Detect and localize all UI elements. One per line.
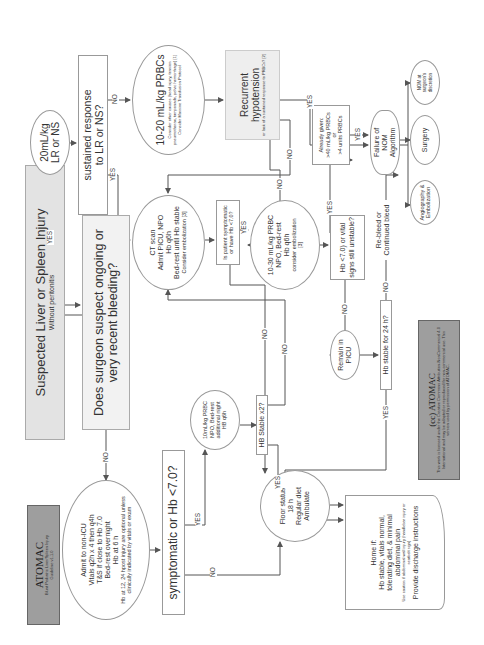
copyright-box: (cc) ATOMAC This work is licensed under …	[418, 320, 460, 480]
admit-line2: Vitals q2h x 4 then q4h	[88, 514, 96, 585]
hb-stable-24h-text: Hb stable for 24 h?	[382, 315, 390, 374]
prbc1030-line2: NPO, Bed-rest	[275, 222, 283, 268]
fluid-bolus-oval: 20mL/kg LR or NS	[30, 110, 70, 175]
prbc-10-20-note2: Consider Massive Transfusion Protocol	[178, 65, 183, 134]
sustained-response-line2: to LR or NS?	[93, 105, 105, 166]
edge-label-surgeon-yes: YES	[47, 230, 54, 245]
edge-label-ispatient-yes: YES	[241, 220, 248, 235]
edge-label-hb24-no: NO	[383, 281, 390, 293]
admit-line1: Admit to non-ICU	[80, 523, 88, 577]
hb-stable-x2-box: HB Stable x2?	[256, 395, 268, 455]
floor-line1: Floor status	[279, 488, 287, 525]
hb-unstable-line1: Hb <7.0) or vital	[339, 223, 347, 273]
edge-label-recurrent-yes: YES	[307, 94, 314, 109]
suspected-injury-subtitle: Without peritonitis	[48, 275, 56, 331]
home-line3: tolerating diet, & minimal	[386, 514, 394, 591]
suspected-injury-box: Suspected Liver or Spleen Injury Without…	[25, 165, 65, 440]
edge-label-hbunstable-no: NO	[342, 303, 349, 315]
nom-line3: discretion	[428, 73, 433, 92]
sustained-response-box: sustained response to LR or NS?	[78, 55, 108, 215]
prbc-10-20-title: 10-20 mL/kg PRBCs	[155, 54, 167, 145]
edge-label-surgeon-no: NO	[103, 451, 110, 463]
floor-line4: Ambulate	[303, 491, 311, 521]
admit-line4: Bed-rest overnight	[104, 521, 112, 578]
nom-discretion-oval: NOM at surgeon's discretion	[410, 60, 440, 105]
admit-non-icu-oval: Admit to non-ICU Vitals q2h x 4 then q4h…	[62, 480, 150, 620]
failure-nom-oval: Failure of NOM Algorithm	[370, 110, 400, 175]
failure-line1: Failure of	[373, 128, 381, 157]
surgery-text: Surgery	[421, 128, 429, 153]
prbc-10-30-oval: 10-30 mL/kg PRBC NPO, Bed-rest Hb q6h co…	[250, 200, 320, 290]
surgery-oval: Surgery	[410, 115, 440, 165]
ct-scan-oval: CT scan Admit PICU, NPO Hb q6h Bed-rest …	[132, 195, 205, 290]
fluid-bolus-line1: 20mL/kg	[39, 123, 51, 161]
edge-label-hb24-yes: YES	[383, 405, 390, 420]
floor-line2: 18 h	[287, 499, 295, 513]
copyright-text: This work is licensed under the Creative…	[437, 327, 451, 473]
flowchart-stage: ATOMAC Blunt Pediatric Liver/Spleen Inju…	[0, 0, 484, 645]
admit-note: Hb at 12, 24 hpost injury are optional u…	[120, 495, 133, 605]
ct-line2: Admit PICU, NPO	[157, 215, 165, 271]
surgeon-question-text: Does surgeon suspect ongoing or very rec…	[92, 216, 121, 429]
admit-line3: T&S if close to Hb 7.0	[96, 516, 104, 584]
rebleed-line1: Re-bleed or	[375, 212, 383, 249]
angiography-oval: Angiography & Embolization	[410, 180, 440, 225]
sustained-response-line1: sustained response	[81, 89, 93, 180]
hb-unstable-line2: signs still unstable?	[348, 217, 356, 278]
already-given-line4: >4 units PRBCs	[337, 116, 343, 155]
recurrent-hypotension-title: Recurrent hypotension	[239, 51, 262, 139]
edge-label-symptomatic-no: NO	[210, 566, 217, 578]
home-line5: Provide discharge instructions	[412, 506, 420, 599]
remain-line2: PICU	[345, 347, 353, 364]
edge-label-hbx2-yes: YES	[275, 475, 282, 490]
hb-stable-24h-box: Hb stable for 24 h?	[380, 300, 392, 390]
is-patient-line2: or have Hb <7.0?	[228, 211, 234, 253]
ct-line4: Bed-rest until Hb stable	[173, 206, 181, 279]
floor-line3: Regular diet	[295, 487, 303, 525]
hb-stable-x2-text: HB Stable x2?	[258, 403, 266, 448]
is-patient-symptomatic-box: Is patient symptomatic or have Hb <7.0?	[216, 200, 240, 265]
edge-label-already-no: NO	[277, 178, 284, 190]
already-given-box: Already given: >40 mL/kg PRBCs or >4 uni…	[312, 105, 350, 165]
admit-line5: Hb at 6 h	[112, 536, 120, 564]
prbc-10-oval: 10mL/kg PRBC NPO, Bed-rest additional ni…	[190, 390, 240, 450]
ct-line1: CT scan	[149, 230, 157, 256]
angio-line2: Embolization	[425, 187, 431, 219]
ct-line3: Hb q6h	[165, 231, 173, 254]
ct-line5: Consider embolization [3]	[181, 211, 187, 273]
recurrent-hypotension-note: or lack of a sustained response to PRBCs…	[262, 54, 267, 136]
prbc-10-20-oval: 10-20 mL/kg PRBCs Consider other causes …	[132, 45, 205, 155]
edge-label-already-yes: YES	[355, 127, 362, 142]
home-line2: Hb stable, vitals normal,	[378, 515, 386, 590]
edge-label-ispatient-no: NO	[262, 328, 269, 340]
edge-label-recurrent-no: NO	[287, 148, 294, 160]
fluid-bolus-line2: LR or NS	[50, 122, 62, 163]
failure-line3: Algorithm	[389, 128, 397, 158]
remain-picu-oval: Remain in PICU	[330, 330, 360, 380]
prbc1030-line3: Hb q6h	[283, 234, 291, 257]
surgeon-question-box: Does surgeon suspect ongoing or very rec…	[82, 215, 130, 430]
edge-label-sustained-no: NO	[112, 93, 119, 105]
symptomatic-question-box: symptomatic or Hb <7.0?	[162, 450, 185, 615]
symptomatic-question-text: symptomatic or Hb <7.0?	[167, 466, 181, 600]
edge-label-hbunstable-yes: YES	[327, 200, 334, 215]
recurrent-hypotension-box: Recurrent hypotension or lack of a susta…	[225, 50, 280, 140]
remain-line1: Remain in	[337, 339, 345, 371]
home-discharge-box: Home if: Hb stable, vitals normal, toler…	[345, 495, 445, 610]
atomac-version: Guideline v1.1.0	[50, 551, 55, 580]
atomac-title-box: ATOMAC Blunt Pediatric Liver/Spleen Inju…	[27, 505, 60, 625]
floor-status-circle: Floor status 18 h Regular diet Ambulate	[260, 470, 330, 542]
edge-label-symptomatic-yes: YES	[195, 512, 202, 527]
failure-line2: NOM	[381, 134, 389, 150]
prbc1030-line1: 10-30 mL/kg PRBC	[267, 215, 275, 275]
rebleed-label: Re-bleed or Continued bleed	[372, 200, 394, 260]
edge-label-sustained-yes: YES	[110, 167, 117, 182]
edge-label-hbx2-no: NO	[282, 343, 289, 355]
home-line1: Home if:	[370, 539, 378, 565]
home-note: Use caution if abdominal wall injury (ha…	[402, 496, 411, 609]
prbc1030-line5: [3]	[297, 242, 303, 248]
rebleed-line2: Continued bleed	[383, 205, 391, 256]
prbc10-line4: HB q6h	[221, 411, 227, 429]
hb-unstable-question-box: Hb <7.0) or vital signs still unstable?	[330, 215, 365, 280]
